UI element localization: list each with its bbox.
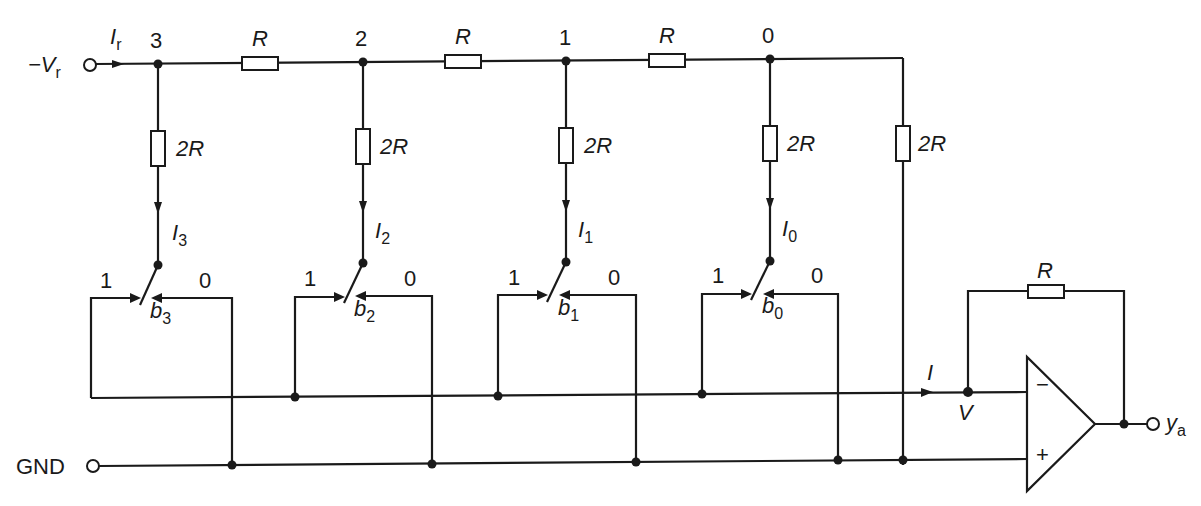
junction-dot-icon [834,456,843,465]
feedback-resistor-label: R [1037,260,1053,282]
summing-node-label: V [958,402,973,424]
node-label-0: 0 [762,25,774,47]
branch-3 [91,64,232,465]
series-resistor-icon [242,57,278,70]
sum-current-label: I [927,362,933,384]
current-arrow-icon [112,60,124,68]
current-arrow-icon [921,388,933,397]
ground-label: GND [16,456,65,478]
shunt-resistor-label: 2R [584,135,612,157]
branch-2 [295,62,432,464]
switch-pos-one-label: 1 [712,265,724,287]
branch-current-label-0: I0 [782,218,797,240]
input-terminal-icon [84,59,96,71]
node-label-1: 1 [559,27,571,49]
node-label-3: 3 [150,30,162,52]
contact-arrow-icon [741,289,752,299]
ground-terminal-icon [87,460,99,472]
switch-pos-zero-label: 0 [811,265,823,287]
output-node-dot-icon [1120,420,1129,429]
branch-current-label-1: I1 [578,219,593,241]
opamp-noninverting-label: + [1036,444,1049,466]
series-resistor-icon [649,54,685,67]
current-arrow-icon [562,200,570,212]
switch-pos-zero-label: 0 [199,270,211,292]
output-terminal-icon [1147,418,1159,430]
input-current-label: Ir [110,26,121,48]
switch-bit-label-2: b2 [354,298,375,320]
switch-pos-zero-label: 0 [404,268,416,290]
ground-bus-wire [99,459,1027,466]
series-resistor-label: R [455,26,471,48]
current-arrow-icon [154,202,162,214]
junction-dot-icon [228,461,237,470]
contact-arrow-icon [537,290,548,300]
contact-arrow-icon [334,292,345,302]
node-label-2: 2 [355,28,367,50]
contact-arrow-icon [130,293,141,303]
shunt-resistor-label: 2R [176,138,204,160]
junction-dot-icon [494,392,503,401]
termination-resistor-label: 2R [918,133,946,155]
branch-0 [702,59,838,462]
branch-current-label-2: I2 [375,220,390,242]
current-arrow-icon [766,198,774,210]
shunt-resistor-label: 2R [787,133,815,155]
switch-pos-one-label: 1 [304,268,316,290]
branch-current-label-3: I3 [172,222,187,244]
switch-pos-zero-label: 0 [608,267,620,289]
switch-bit-label-3: b3 [150,300,171,322]
junction-dot-icon [291,393,300,402]
input-voltage-label: −Vr [28,54,61,76]
shunt-resistor-label: 2R [380,136,408,158]
switch-pos-one-label: 1 [508,267,520,289]
switch-bit-label-1: b1 [558,297,579,319]
current-arrow-icon [359,201,367,213]
shunt-resistor-icon [356,129,370,164]
r2r-dac-diagram: −Vr Ir 3 2 1 0 R R R 2R 2R 2R 2R 2R I3 I… [0,0,1201,506]
series-resistor-label: R [659,25,675,47]
opamp-inverting-label: − [1036,374,1049,396]
shunt-resistor-icon [559,128,573,163]
series-resistor-icon [445,55,481,68]
circuit-wiring [0,0,1201,506]
junction-dot-icon [632,458,641,467]
junction-dot-icon [698,390,707,399]
switch-bit-label-0: b0 [762,295,783,317]
shunt-resistor-icon [763,126,777,161]
top-rail-wire [95,58,903,64]
feedback-resistor-icon [1028,285,1064,298]
branch-1 [498,61,636,463]
junction-dot-icon [428,460,437,469]
output-label: ya [1166,412,1186,434]
series-resistor-label: R [252,28,268,50]
shunt-resistor-icon [151,131,165,166]
junction-dot-icon [899,456,908,465]
termination-resistor-icon [896,126,910,161]
switch-pos-one-label: 1 [100,270,112,292]
